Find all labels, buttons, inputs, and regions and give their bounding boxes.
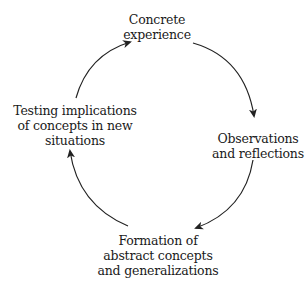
node-concrete-experience: Concrete experience (123, 12, 191, 42)
node-line: Observations (212, 131, 304, 146)
node-testing-implications: Testing implications of concepts in new … (13, 103, 137, 148)
arrow-testing-to-concrete (76, 42, 130, 98)
arrow-concrete-to-observations (193, 43, 254, 116)
node-line: of concepts in new (13, 118, 137, 133)
arrow-formation-to-testing (70, 151, 128, 226)
arrow-observations-to-formation (196, 160, 253, 228)
node-line: and generalizations (98, 263, 219, 278)
node-line: Testing implications (13, 103, 137, 118)
node-line: and reflections (212, 146, 304, 161)
node-line: Concrete (123, 12, 191, 27)
node-line: abstract concepts (98, 248, 219, 263)
node-observations-reflections: Observations and reflections (212, 131, 304, 161)
node-line: Formation of (98, 233, 219, 248)
node-line: situations (13, 133, 137, 148)
node-line: experience (123, 27, 191, 42)
node-formation-abstract-concepts: Formation of abstract concepts and gener… (98, 233, 219, 278)
